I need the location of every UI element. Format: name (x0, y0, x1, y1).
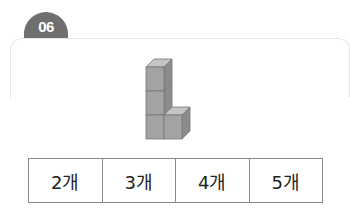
cube-stack-figure (140, 55, 210, 145)
cube (146, 115, 164, 139)
choice-4[interactable]: 4개 (175, 159, 249, 202)
problem-number-badge: 06 (24, 12, 68, 38)
choice-5[interactable]: 5개 (249, 159, 323, 202)
answer-choices: 2개 3개 4개 5개 (28, 158, 323, 203)
choice-3[interactable]: 3개 (102, 159, 176, 202)
choice-2[interactable]: 2개 (29, 159, 102, 202)
cube (164, 107, 190, 139)
cube (146, 59, 172, 91)
